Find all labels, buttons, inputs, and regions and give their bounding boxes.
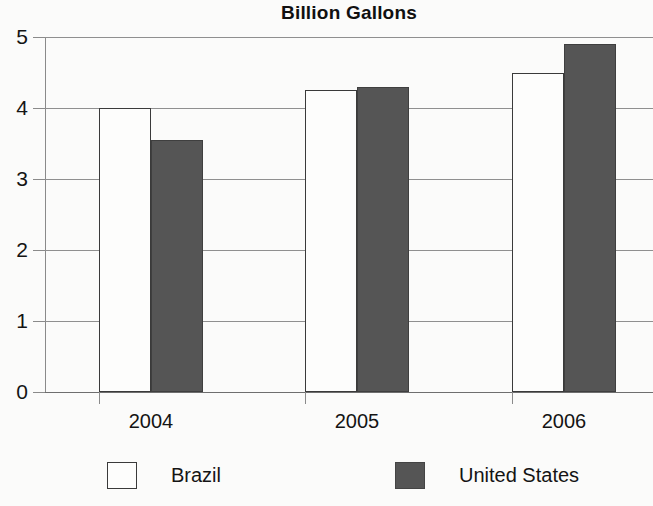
y-axis-label-1: 1	[2, 310, 28, 331]
chart-title: Billion Gallons	[45, 2, 653, 24]
bar-united-states-2005	[357, 87, 409, 392]
plot-area	[45, 37, 653, 392]
y-axis-label-3: 3	[2, 168, 28, 189]
y-axis-label-5: 5	[2, 26, 28, 47]
y-axis-label-4: 4	[2, 97, 28, 118]
y-axis-label-0: 0	[2, 381, 28, 402]
x-axis-label-2005: 2005	[297, 410, 417, 433]
x-tick-2005	[305, 392, 306, 404]
x-tick-2004	[99, 392, 100, 404]
y-axis-label-2: 2	[2, 239, 28, 260]
gridline-5	[45, 37, 653, 38]
bar-brazil-2004	[99, 108, 151, 392]
bar-brazil-2005	[305, 90, 357, 392]
bar-brazil-2006	[512, 73, 564, 393]
legend-label-brazil: Brazil	[171, 464, 221, 487]
bar-chart: Billion Gallons 543210 200420052006 Braz…	[0, 0, 653, 506]
gridline-0	[45, 392, 653, 393]
bar-united-states-2004	[151, 140, 203, 392]
legend-item-brazil: Brazil	[107, 462, 221, 489]
legend-label-united-states: United States	[459, 464, 579, 487]
x-tick-2006	[512, 392, 513, 404]
chart-legend: Brazil United States	[0, 462, 653, 506]
bar-united-states-2006	[564, 44, 616, 392]
x-axis-label-2004: 2004	[91, 410, 211, 433]
legend-swatch-united-states-icon	[395, 462, 425, 489]
legend-item-united-states: United States	[395, 462, 579, 489]
legend-swatch-brazil-icon	[107, 462, 137, 489]
x-axis-label-2006: 2006	[504, 410, 624, 433]
